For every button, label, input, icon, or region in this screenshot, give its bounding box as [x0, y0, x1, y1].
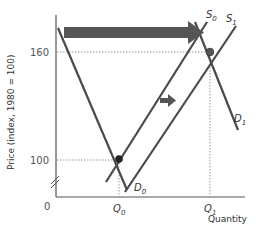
supply-shift-arrow	[160, 94, 176, 107]
label-s1: S1	[226, 13, 237, 27]
y-tick-160: 160	[30, 47, 49, 58]
demand-shift-arrow	[64, 21, 204, 44]
origin-label: 0	[44, 201, 50, 212]
label-s0: S0	[206, 9, 217, 23]
equilibrium-point-new	[206, 48, 214, 56]
equilibrium-point-initial	[115, 155, 123, 163]
y-axis-title: Price (index, 1980 = 100)	[6, 54, 16, 170]
supply-curve-s1	[125, 26, 236, 192]
y-tick-100: 100	[30, 155, 49, 166]
x-axis-title: Quantity	[208, 214, 248, 224]
supply-demand-chart: 160 100 0 Q0 Q1 Quantity Price (index, 1…	[0, 0, 258, 229]
axis-break-icon	[51, 176, 59, 188]
x-tick-q0: Q0	[113, 203, 126, 217]
label-d0: D0	[134, 182, 147, 196]
